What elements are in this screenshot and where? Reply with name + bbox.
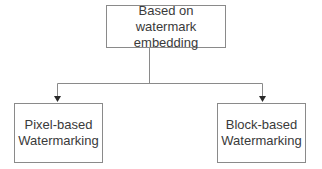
arrowhead-left-icon <box>54 96 61 102</box>
root-node-line-1: Based on watermark <box>107 3 225 35</box>
root-node: Based on watermark embedding <box>106 5 226 48</box>
child-node-line-1: Block-based <box>221 117 301 133</box>
root-node-line-2: embedding <box>107 35 225 51</box>
child-node-line-1: Pixel-based <box>18 117 98 133</box>
child-node-block-based: Block-based Watermarking <box>217 103 306 163</box>
arrowhead-right-icon <box>259 96 266 102</box>
child-node-line-2: Watermarking <box>18 133 98 149</box>
child-node-line-2: Watermarking <box>221 133 301 149</box>
child-node-pixel-based: Pixel-based Watermarking <box>14 103 103 163</box>
